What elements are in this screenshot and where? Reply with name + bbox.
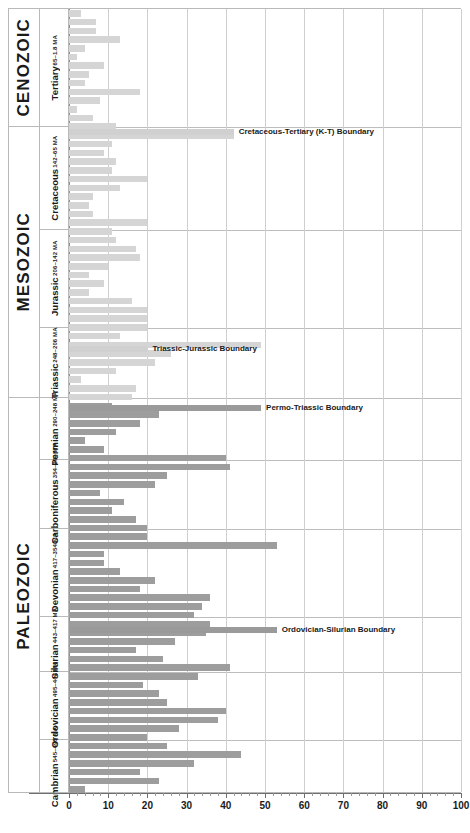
bar	[69, 568, 120, 575]
bar	[69, 612, 194, 619]
bar	[69, 307, 147, 314]
x-tick-minor	[320, 793, 321, 796]
period-cell-triassic: Triassic248–206 MA	[40, 328, 68, 398]
x-tick-minor	[77, 793, 78, 796]
bar	[69, 385, 136, 392]
x-tick-minor	[273, 793, 274, 796]
x-tick-minor	[430, 793, 431, 796]
plot-area: Cretaceous-Tertiary (K-T) BoundaryTriass…	[69, 8, 461, 793]
x-tick-minor	[367, 793, 368, 796]
bar	[69, 551, 104, 558]
period-age: 65–1.8 MA	[51, 35, 57, 65]
period-age: 290–248 MA	[51, 392, 57, 427]
gridline-80	[383, 9, 384, 792]
bar	[69, 150, 104, 157]
bar	[69, 542, 277, 549]
period-name: Cambrian	[49, 763, 60, 807]
gridline-40	[226, 9, 227, 792]
x-tick-label: 10	[103, 800, 114, 811]
era-cell-cenozoic: CENOZOIC	[9, 9, 39, 127]
bar	[69, 516, 136, 523]
bar	[69, 185, 120, 192]
x-tick-label: 80	[377, 800, 388, 811]
bar	[69, 10, 81, 17]
bar	[69, 211, 93, 218]
x-tick-50	[265, 793, 266, 798]
bar	[69, 359, 155, 366]
x-tick-minor	[453, 793, 454, 796]
x-tick-label: 20	[142, 800, 153, 811]
period-age: 443–417 MA	[51, 608, 57, 643]
era-cell-paleozoic: PALEOZOIC	[9, 398, 39, 794]
period-cell-jurassic: Jurassic206–142 MA	[40, 230, 68, 328]
bar	[69, 751, 241, 758]
x-tick-minor	[124, 793, 125, 796]
x-tick-label: 60	[299, 800, 310, 811]
period-cell-cretaceous: Cretaceous142–65 MA	[40, 127, 68, 231]
period-age: 545–495 MA	[51, 727, 57, 762]
bar	[69, 490, 100, 497]
bar	[69, 394, 132, 401]
x-tick-minor	[234, 793, 235, 796]
bar	[69, 656, 163, 663]
event-label: Triassic-Jurassic Boundary	[152, 345, 257, 353]
x-tick-minor	[218, 793, 219, 796]
bar	[69, 411, 159, 418]
bar	[69, 464, 230, 471]
bar	[69, 690, 159, 697]
bar	[69, 603, 202, 610]
x-tick-40	[226, 793, 227, 798]
bar	[69, 315, 147, 322]
bar	[69, 778, 159, 785]
bar	[69, 734, 147, 741]
period-age: 248–206 MA	[51, 327, 57, 362]
x-tick-minor	[445, 793, 446, 796]
x-axis: 0102030405060708090100	[69, 793, 461, 827]
x-tick-minor	[328, 793, 329, 796]
x-tick-minor	[210, 793, 211, 796]
x-tick-label: 100	[453, 800, 470, 811]
bar	[69, 682, 143, 689]
bar	[69, 272, 89, 279]
x-tick-80	[383, 793, 384, 798]
event-bar	[69, 405, 261, 411]
era-cell-mesozoic: MESOZOIC	[9, 127, 39, 399]
x-tick-minor	[390, 793, 391, 796]
event-bar	[69, 129, 234, 135]
bar	[69, 429, 116, 436]
x-tick-minor	[414, 793, 415, 796]
bar	[69, 254, 140, 261]
x-tick-minor	[281, 793, 282, 796]
bar	[69, 699, 167, 706]
bar	[69, 769, 140, 776]
era-column: CENOZOICMESOZOICPALEOZOIC	[8, 8, 40, 793]
bar	[69, 499, 124, 506]
bar	[69, 673, 198, 680]
period-age: 495–443 MA	[51, 662, 57, 697]
bar	[69, 289, 89, 296]
bar	[69, 298, 132, 305]
bar	[69, 115, 93, 122]
x-tick-minor	[163, 793, 164, 796]
bar	[69, 533, 147, 540]
period-cell-devonian: Devonian417–354 MA	[40, 529, 68, 617]
bar	[69, 507, 112, 514]
x-tick-minor	[202, 793, 203, 796]
bar	[69, 743, 167, 750]
bar	[69, 54, 77, 61]
x-tick-minor	[296, 793, 297, 796]
period-name: Tertiary	[49, 66, 60, 100]
bar	[69, 193, 93, 200]
x-tick-minor	[85, 793, 86, 796]
x-tick-minor	[100, 793, 101, 796]
bar	[69, 62, 104, 69]
bar	[69, 560, 104, 567]
bar	[69, 420, 140, 427]
bar	[69, 786, 85, 793]
x-tick-minor	[140, 793, 141, 796]
bar	[69, 263, 108, 270]
period-age: 354–290 MA	[51, 443, 57, 478]
era-label: PALEOZOIC	[14, 542, 34, 650]
x-tick-70	[343, 793, 344, 798]
x-tick-minor	[171, 793, 172, 796]
